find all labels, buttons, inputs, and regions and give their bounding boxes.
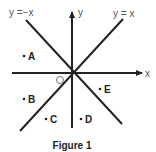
point-a-label: A [28, 51, 35, 62]
x-axis-label: x [145, 68, 150, 79]
y-axis-label: y [78, 7, 83, 18]
figure-caption: Figure 1 [53, 140, 92, 151]
point-a: A [23, 51, 36, 62]
point-b-label: B [28, 94, 35, 105]
line-y-neg-x-label: y =−x [9, 7, 33, 18]
point-c: C [45, 114, 58, 125]
point-e-label: E [104, 84, 111, 95]
coordinate-diagram: x y y =−x y = x A B C D E Figure 1 [0, 0, 156, 152]
origin-marker [57, 77, 64, 84]
point-e: E [99, 84, 111, 95]
point-b: B [23, 94, 36, 105]
point-c-label: C [50, 114, 57, 125]
point-d-label: D [85, 114, 92, 125]
point-d: D [80, 114, 93, 125]
line-y-x-label: y = x [113, 8, 134, 19]
